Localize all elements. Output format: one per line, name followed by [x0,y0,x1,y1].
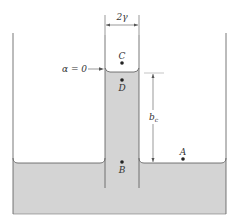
width-arrow-left-icon [106,24,110,27]
width-dimension-label: 2γ [115,12,128,22]
height-arrow-bottom-icon [152,158,155,162]
contact-angle-arrow-icon [99,67,104,70]
point-b-marker [120,160,124,164]
point-a-label: A [179,147,187,157]
width-arrow-right-icon [134,24,138,27]
capillary-diagram: 2γ α = 0 bc C D B A [0,0,236,223]
tube-meniscus [105,68,139,72]
point-a-marker [181,157,185,161]
point-b-label: B [118,165,126,175]
height-arrow-top-icon [152,74,155,78]
point-d-marker [120,78,124,82]
outer-surface-left [13,158,105,163]
point-d-label: D [117,83,125,93]
point-c-label: C [119,51,126,61]
contact-angle-label: α = 0 [62,64,87,74]
point-c-marker [120,61,124,65]
